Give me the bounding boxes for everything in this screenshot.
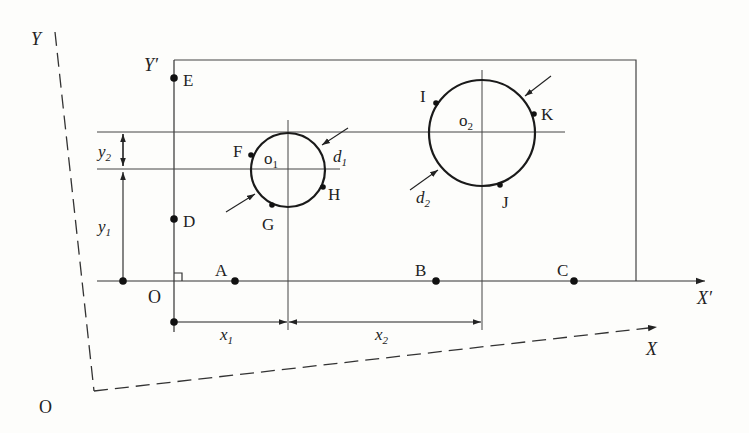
d2-label: d2: [416, 188, 431, 209]
diagram-svg: Y O X Y′ X′ O E D A B C F G H I J K o1 o…: [0, 0, 749, 433]
part-x-label: X′: [696, 288, 713, 308]
label-C: C: [557, 261, 568, 280]
point-y-origin: [119, 277, 127, 285]
point-x-origin: [170, 318, 178, 326]
point-F: [248, 152, 254, 158]
machine-origin-label: O: [39, 397, 52, 417]
label-G: G: [262, 215, 274, 234]
y2-label: y2: [96, 142, 112, 163]
reference-lines: [97, 132, 565, 169]
label-A: A: [215, 261, 228, 280]
label-I: I: [420, 87, 426, 106]
x1-label: x1: [219, 325, 233, 346]
label-H: H: [328, 185, 340, 204]
y1-label: y1: [96, 217, 111, 238]
label-D: D: [183, 212, 195, 231]
dimension-lines: [123, 134, 481, 322]
point-C: [570, 277, 578, 285]
label-F: F: [233, 142, 242, 161]
diagram-canvas: Y O X Y′ X′ O E D A B C F G H I J K o1 o…: [0, 0, 749, 433]
point-E: [170, 74, 178, 82]
machine-y-axis: [55, 32, 94, 391]
center-o1-label: o1: [264, 149, 278, 170]
point-D: [170, 215, 178, 223]
right-angle-mark: [174, 273, 182, 281]
points: [119, 74, 578, 326]
point-I: [433, 100, 439, 106]
d1-arrow-bottom: [226, 194, 255, 212]
part-origin-label: O: [148, 287, 161, 307]
point-A: [231, 277, 239, 285]
d1-label: d1: [333, 147, 347, 168]
point-B: [432, 277, 440, 285]
point-J: [497, 182, 503, 188]
point-K: [531, 111, 537, 117]
x2-label: x2: [374, 325, 389, 346]
d1-arrow-top: [322, 128, 348, 145]
label-B: B: [415, 261, 426, 280]
machine-y-label: Y: [31, 29, 43, 49]
machine-axes: [55, 32, 657, 391]
d2-arrow-top: [525, 76, 551, 96]
label-E: E: [183, 71, 193, 90]
part-axes: [97, 60, 705, 332]
label-K: K: [541, 105, 554, 124]
machine-x-label: X: [645, 339, 658, 359]
circles: [251, 80, 535, 207]
part-outline: [174, 60, 636, 281]
center-lines: [288, 70, 482, 330]
part-y-label: Y′: [144, 55, 159, 75]
d2-arrow-bottom: [410, 170, 438, 190]
label-J: J: [502, 193, 509, 212]
diameter-arrows: [226, 76, 551, 212]
center-o2-label: o2: [459, 111, 473, 132]
point-H: [320, 184, 326, 190]
point-G: [269, 202, 275, 208]
